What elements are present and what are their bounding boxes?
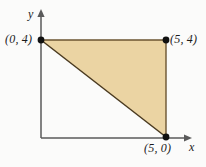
graph-canvas	[0, 0, 206, 167]
coordinate-plane-figure: (0, 4) (5, 4) (5, 0) y x	[0, 0, 206, 167]
vertex-dot-0-4	[38, 37, 45, 44]
x-axis-label: x	[189, 140, 194, 155]
vertex-label-0-4: (0, 4)	[5, 32, 32, 47]
vertex-dot-5-4	[163, 37, 170, 44]
vertex-label-5-4: (5, 4)	[170, 32, 197, 47]
y-axis-label: y	[28, 7, 33, 22]
vertex-dot-5-0	[163, 134, 170, 141]
vertex-label-5-0: (5, 0)	[144, 141, 171, 156]
y-axis-arrowhead	[37, 9, 44, 17]
